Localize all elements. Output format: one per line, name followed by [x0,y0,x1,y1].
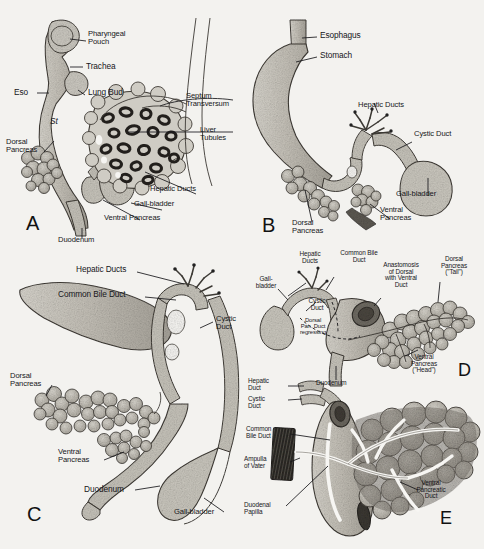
label-a-hepatic-ducts: Hepatic Ducts [150,185,196,193]
label-d-anastomosis: Anastomosis of Dorsal with Ventral Duct [372,262,430,288]
label-a-duodenum: Duodenum [58,236,94,244]
label-a-lung-bud: Lung Bud [88,88,123,96]
label-c-hepatic-ducts: Hepatic Ducts [76,265,126,273]
label-e-hepatic-duct: Hepatic Duct [248,378,269,391]
label-a-liver-tubules: Liver Tubules [200,126,226,141]
label-e-ventral-pancreatic-duct: Ventral Pancreatic Duct [404,480,458,500]
panel-letter-e: E [440,508,452,529]
label-e-duodenal-papilla: Duodenal Papilla [244,502,271,515]
label-a-gall-bladder: Gall-bladder [134,200,174,208]
label-a-trachea: Trachea [86,62,115,70]
label-c-ventral-pancreas: Ventral Pancreas [58,448,89,463]
panel-letter-a: A [26,212,39,235]
label-c-duodenum: Duodenum [84,485,124,493]
label-d-gall-bladder: Gall- bladder [244,276,288,289]
panel-b-hepatic-duct-branches [352,110,390,134]
label-c-cystic-duct: Cystic Duct [216,315,236,330]
label-a-septum-transversum: Septum Transversum [186,92,229,107]
label-d-dorsal-pancreas-tail: Dorsal Pancreas ("Tail") [428,256,480,276]
panel-letter-b: B [262,214,275,237]
panel-c-artwork [20,283,239,524]
label-b-dorsal-pancreas: Dorsal Pancreas [292,219,323,234]
panel-a-liver-tubules [83,82,194,195]
label-b-cystic-duct: Cystic Duct [414,130,451,138]
label-e-ampulla-of-vater: Ampulla of Vater [244,456,266,469]
label-a-eso: Eso [14,88,28,96]
label-b-hepatic-ducts: Hepatic Ducts [358,101,404,109]
panel-letter-d: D [458,360,471,381]
label-c-gall-bladder: Gall-bladder [174,508,214,516]
label-e-common-bile-duct: Common Bile Duct [246,426,271,439]
label-b-esophagus: Esophagus [320,31,361,39]
panel-d-hepatic-duct-branches [300,269,326,290]
label-a-ventral-pancreas: Ventral Pancreas [104,214,160,222]
label-b-gall-bladder: Gall-bladder [396,190,436,198]
label-c-dorsal-pancreas: Dorsal Pancreas [10,372,41,387]
label-a-pharyngeal-pouch: Pharyngeal Pouch [88,30,125,45]
label-d-cystic-duct: Cystic Duct [300,298,334,311]
label-e-cystic-duct: Cystic Duct [248,396,265,409]
label-d-hepatic-ducts: Hepatic Ducts [286,251,334,264]
label-b-ventral-pancreas: Ventral Pancreas [380,206,411,221]
label-d-duodenum: Duodenum [316,380,346,387]
label-d-dorsal-pan-duct-regressing: Dorsal Pan. Duct regressing [290,318,336,336]
label-b-stomach: Stomach [320,51,352,59]
label-d-ventral-pancreas-head: Ventral Pancreas ("Head") [398,354,450,374]
anatomy-figure-plate: Pharyngeal Pouch Trachea Eso Lung Bud Se… [0,0,484,549]
label-c-common-bile-duct: Common Bile Duct [58,290,126,298]
label-a-st: St [50,117,58,125]
panel-letter-c: C [27,503,41,526]
label-a-dorsal-pancreas: Dorsal Pancreas [6,138,37,153]
